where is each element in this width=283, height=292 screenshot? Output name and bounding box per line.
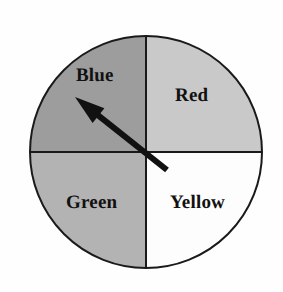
spinner-sector-blue[interactable] bbox=[30, 36, 146, 152]
spinner-figure: Blue Red Green Yellow bbox=[0, 0, 283, 292]
spinner-graphic bbox=[0, 0, 283, 292]
spinner-label-blue: Blue bbox=[76, 65, 114, 87]
spinner-label-red: Red bbox=[175, 85, 208, 107]
spinner-label-green: Green bbox=[66, 192, 117, 214]
spinner-label-yellow: Yellow bbox=[170, 192, 225, 214]
